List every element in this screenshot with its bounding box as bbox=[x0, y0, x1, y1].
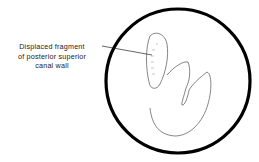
leader-line bbox=[102, 46, 152, 55]
tympanic-membrane-fold bbox=[150, 62, 211, 136]
fragment-label: Displaced fragment of posterior superior… bbox=[2, 42, 102, 71]
fragment-hatching bbox=[151, 44, 158, 74]
label-line-3: canal wall bbox=[2, 61, 102, 71]
label-line-1: Displaced fragment bbox=[2, 42, 102, 52]
otoscopic-view-diagram bbox=[0, 0, 259, 162]
displaced-fragment bbox=[147, 33, 168, 88]
ear-canal-circle bbox=[106, 9, 250, 153]
label-line-2: of posterior superior bbox=[2, 52, 102, 62]
